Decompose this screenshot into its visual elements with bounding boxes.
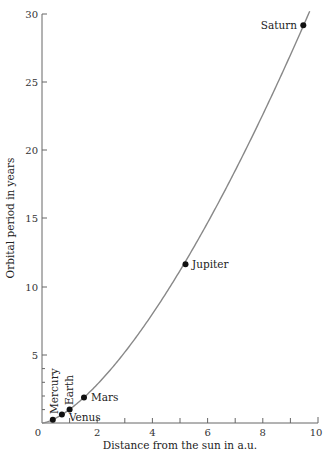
label-earth: Earth [63, 375, 75, 405]
kepler-curve [42, 11, 310, 423]
label-jupiter: Jupiter [191, 258, 229, 270]
x-tick-4: 4 [149, 427, 155, 438]
x-tick-2: 2 [94, 427, 100, 438]
point-mercury [50, 417, 56, 423]
axes [42, 14, 318, 423]
x-tick-10: 10 [310, 427, 323, 438]
y-tick-25: 25 [25, 77, 38, 88]
orbital-period-chart: 30 25 20 15 10 5 0 2 4 6 8 10 Distance f… [0, 0, 333, 457]
point-jupiter [183, 261, 189, 267]
y-tick-30: 30 [25, 9, 38, 20]
y-tick-10: 10 [25, 282, 38, 293]
label-mars: Mars [91, 391, 118, 403]
point-saturn [300, 22, 306, 28]
label-saturn: Saturn [261, 19, 297, 31]
x-axis-title: Distance from the sun in a.u. [103, 439, 257, 451]
label-mercury: Mercury [48, 368, 60, 414]
y-tick-5: 5 [32, 350, 38, 361]
y-tick-15: 15 [25, 213, 38, 224]
y-tick-20: 20 [25, 145, 38, 156]
x-tick-0: 0 [35, 427, 41, 438]
x-tick-6: 6 [204, 427, 210, 438]
x-tick-8: 8 [260, 427, 266, 438]
label-venus: Venus [68, 411, 101, 423]
y-axis-title: Orbital period in years [4, 158, 16, 279]
point-mars [81, 394, 87, 400]
data-points [50, 22, 307, 422]
